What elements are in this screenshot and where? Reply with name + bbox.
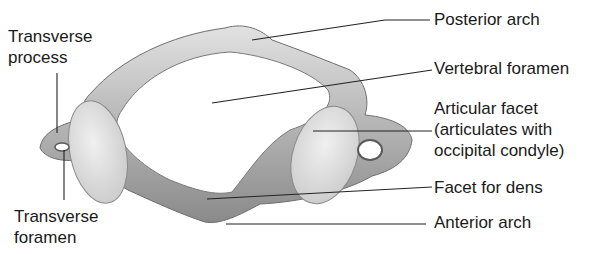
label-articular-facet-line1: Articular facet: [434, 99, 538, 118]
label-transverse-process-line2: process: [8, 48, 68, 67]
label-vertebral-foramen: Vertebral foramen: [434, 59, 569, 78]
label-articular-facet-line2: (articulates with: [434, 120, 552, 139]
label-transverse-process-line1: Transverse: [8, 27, 92, 46]
label-transverse-foramen-line2: foramen: [14, 228, 76, 247]
label-facet-for-dens: Facet for dens: [434, 178, 543, 197]
label-articular-facet-line3: occipital condyle): [434, 141, 564, 160]
label-posterior-arch: Posterior arch: [434, 10, 540, 29]
label-anterior-arch: Anterior arch: [434, 213, 531, 232]
posterior-arch-line: [252, 20, 430, 40]
atlas-vertebra-diagram: Posterior arch Vertebral foramen Articul…: [0, 0, 611, 253]
left-transverse-foramen: [55, 143, 69, 151]
right-transverse-foramen: [358, 140, 382, 160]
label-transverse-foramen-line1: Transverse: [14, 207, 98, 226]
